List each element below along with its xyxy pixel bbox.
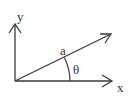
y-axis	[9, 24, 21, 81]
vector-label: a	[60, 43, 66, 58]
x-axis	[15, 75, 112, 87]
x-axis-label: x	[117, 80, 124, 95]
angle-arc	[64, 58, 70, 81]
angle-label: θ	[73, 62, 79, 77]
vector-diagram: y x a θ	[0, 0, 134, 96]
y-axis-label: y	[17, 9, 24, 24]
diagram-canvas: y x a θ	[0, 0, 134, 96]
